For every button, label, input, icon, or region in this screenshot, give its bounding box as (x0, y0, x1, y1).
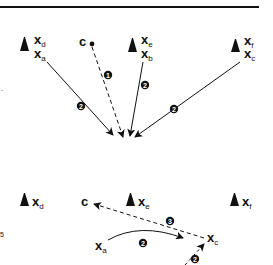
peak-icon (20, 193, 29, 206)
bottom-label-xa: xa (95, 238, 107, 255)
bottom-marker-xe: xe (126, 193, 150, 211)
svg-text:3: 3 (168, 218, 172, 225)
svg-text:xe: xe (138, 194, 150, 211)
bottom-label-xc: xc (207, 230, 218, 247)
svg-text:c: c (79, 34, 86, 49)
side-fragment-upper: · (1, 87, 3, 94)
svg-text:xc: xc (244, 46, 255, 63)
arrow-c-to-target (92, 47, 123, 137)
cursor-c: c (79, 34, 94, 49)
marker-xe-xb: xe xb (128, 32, 153, 63)
arrow-xa-to-target (47, 62, 113, 135)
marker-xf-xc: xf xc (231, 33, 255, 63)
marker-xd-xa: xd xa (20, 32, 46, 63)
peak-icon (128, 38, 137, 52)
peak-icon (126, 193, 135, 206)
step-badge-2-below: 2 (191, 255, 199, 263)
svg-text:2: 2 (79, 103, 83, 110)
arrow-xb-to-target (130, 62, 143, 136)
step-badge-3: 3 (166, 217, 174, 225)
bottom-marker-xf: xf (230, 193, 252, 211)
arrow-xc-to-target (135, 62, 240, 137)
step-badge-2-xb: 2 (141, 81, 149, 89)
peak-icon (20, 37, 29, 51)
peak-icon (230, 193, 239, 206)
svg-text:1: 1 (106, 72, 110, 79)
svg-text:2: 2 (141, 240, 145, 247)
svg-text:xf: xf (242, 194, 252, 211)
svg-text:2: 2 (172, 106, 176, 113)
svg-text:2: 2 (193, 256, 197, 263)
bottom-marker-xd: xd (20, 193, 44, 211)
step-badge-2-xa: 2 (77, 102, 85, 110)
diagram-svg: xd xa c xe xb xf xc 1 2 2 2 · 5 x (0, 0, 273, 265)
diagram-canvas: xd xa c xe xb xf xc 1 2 2 2 · 5 x (0, 0, 273, 265)
step-badge-2-xc: 2 (170, 105, 178, 113)
step-badge-2-curve: 2 (139, 239, 147, 247)
svg-text:xd: xd (32, 194, 44, 211)
peak-icon (231, 39, 240, 52)
bottom-label-c: c (81, 194, 88, 209)
cursor-dot (90, 42, 95, 47)
step-badge-1: 1 (104, 71, 112, 79)
side-fragment-lower: 5 (0, 231, 4, 238)
arrow-xa-to-xc (108, 230, 183, 240)
svg-text:2: 2 (143, 82, 147, 89)
